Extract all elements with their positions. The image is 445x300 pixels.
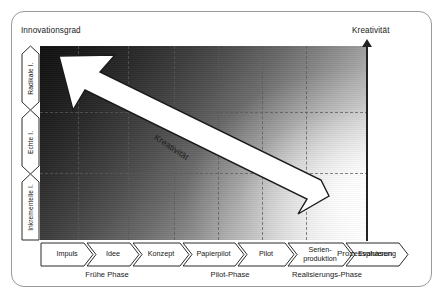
vertical-axis-line (366, 44, 368, 241)
phase-group-labels: Frühe Phase Pilot-Phase Realisierungs-Ph… (40, 270, 370, 284)
innovation-segment-echte[interactable]: Echte I. (21, 109, 40, 175)
innovation-segment-label: Echte I. (21, 109, 40, 175)
prozessphasen-axis-label: Prozessphasen (337, 249, 392, 258)
innovation-segment-label: Radikale I. (21, 45, 40, 111)
gridline-vertical (128, 46, 129, 240)
gridline-horizontal (40, 112, 368, 113)
phase-group-fruehe-phase: Frühe Phase (52, 270, 162, 279)
vertical-axis-arrow-icon (362, 39, 372, 47)
innovation-segment-label: Inkrementelle I. (21, 173, 40, 241)
gridline-vertical (306, 46, 307, 240)
gridline-vertical (78, 46, 79, 240)
innovation-segment-radikale[interactable]: Radikale I. (21, 45, 40, 111)
process-step-papierpilot[interactable]: Papierpilot (182, 242, 245, 267)
creativity-gradient (40, 46, 368, 240)
phase-group-realisierungs-phase: Realisierungs-Phase (262, 270, 392, 279)
gridline-vertical (262, 46, 263, 240)
process-step-label: Papierpilot (182, 242, 245, 267)
gridline-vertical (218, 46, 219, 240)
plot-area (40, 46, 368, 240)
innovationsgrad-axis: Radikale I. Echte I. Inkrementelle I. (21, 45, 40, 241)
gridline-horizontal (40, 173, 368, 174)
innovation-segment-inkrementelle[interactable]: Inkrementelle I. (21, 173, 40, 241)
innovation-creativity-diagram: Innovationsgrad Kreativität Kreativität … (0, 0, 445, 300)
innovationsgrad-axis-title: Innovationsgrad (21, 26, 81, 35)
kreativitaet-axis-title: Kreativität (352, 26, 390, 35)
